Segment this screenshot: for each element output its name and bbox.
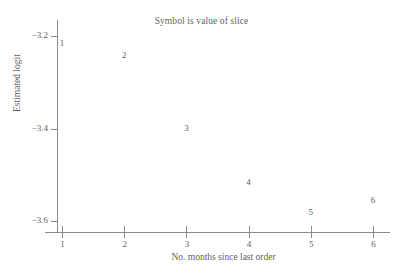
y-tick-label: −3.6 [22, 215, 48, 225]
y-tick-label: −3.2 [22, 30, 48, 40]
y-axis-label: Estimated logit [12, 98, 22, 112]
x-axis-label: No. months since last order [57, 252, 390, 262]
x-tick-mark [186, 226, 187, 238]
x-tick-mark [373, 226, 374, 238]
x-tick-mark [311, 226, 312, 238]
x-tick-mark [124, 226, 125, 238]
x-tick-label: 3 [174, 239, 199, 249]
y-tick: −3.4 [0, 129, 58, 130]
x-tick-mark [62, 226, 63, 238]
data-point-symbol: 5 [309, 207, 314, 217]
y-tick-label: −3.4 [22, 123, 48, 133]
y-tick-mark [51, 221, 58, 222]
x-tick-label: 4 [237, 239, 262, 249]
y-tick-mark [51, 129, 58, 130]
data-point-symbol: 6 [371, 195, 376, 205]
x-tick-mark [249, 226, 250, 238]
x-tick-label: 2 [112, 239, 137, 249]
y-tick-mark [51, 36, 58, 37]
x-axis-line [45, 232, 390, 233]
data-point-symbol: 2 [122, 50, 127, 60]
chart-figure: Symbol is value of slice Estimated logit… [0, 0, 403, 277]
data-point-symbol: 1 [60, 38, 65, 48]
y-tick: −3.2 [0, 36, 58, 37]
x-tick-label: 1 [50, 239, 75, 249]
x-tick-label: 5 [299, 239, 324, 249]
y-tick: −3.6 [0, 221, 58, 222]
data-point-symbol: 4 [246, 177, 251, 187]
y-axis-line [57, 20, 58, 232]
data-point-symbol: 3 [184, 123, 189, 133]
chart-title: Symbol is value of slice [0, 16, 403, 26]
x-tick-label: 6 [361, 239, 386, 249]
